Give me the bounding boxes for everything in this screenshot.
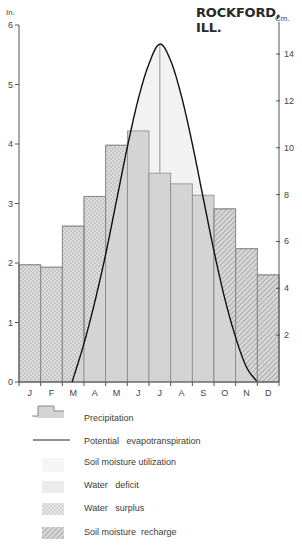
month-label: J [158,388,163,398]
legend-label: Soil moisture recharge [84,527,177,537]
right-tick-label: 2 [284,330,289,340]
plot-area: 01234562468101214JFMAMJJASOND [8,20,294,398]
legend-item-water-surplus: Water surplus [0,497,302,517]
month-label: A [92,388,98,398]
month-label: J [28,388,33,398]
month-label: O [221,388,228,398]
right-tick-label: 6 [284,236,289,246]
left-tick-label: 4 [8,139,13,149]
left-tick-label: 1 [8,318,13,328]
legend-item-precipitation: Precipitation [0,402,302,422]
legend-label: Potential evapotranspiration [84,436,201,446]
month-label: F [49,388,55,398]
month-label: S [200,388,206,398]
left-axis-unit: In. [6,8,15,17]
right-axis-unit: Cm. [275,14,290,23]
legend: Precipitation Potential evapotranspirati… [0,400,302,547]
light-fill-icon [30,456,70,472]
legend-label: Water surplus [84,503,144,513]
precipitation-bar [171,184,193,382]
precipitation-bar [192,195,214,382]
right-tick-label: 12 [284,96,294,106]
legend-label: Soil moisture utilization [84,457,176,467]
left-tick-label: 3 [8,199,13,209]
left-tick-label: 2 [8,258,13,268]
left-tick-label: 6 [8,20,13,30]
precipitation-bar [149,173,171,382]
legend-label: Precipitation [84,413,134,423]
precipitation-bar [257,275,279,382]
legend-item-water-deficit: Water deficit [0,475,302,495]
dots-icon [30,501,70,517]
right-tick-label: 14 [284,49,294,59]
precipitation-bar-icon [30,402,70,418]
right-tick-label: 4 [284,283,289,293]
precipitation-bar [41,267,63,382]
left-tick-label: 5 [8,80,13,90]
hatch-icon [30,525,70,541]
precipitation-bar [19,265,41,382]
precipitation-bar [127,131,149,382]
right-tick-label: 10 [284,143,294,153]
gray-fill-icon [30,479,70,495]
right-tick-label: 8 [284,190,289,200]
legend-item-soil-moisture-utilization: Soil moisture utilization [0,452,302,472]
month-label: D [265,388,272,398]
legend-item-soil-moisture-recharge: Soil moisture recharge [0,522,302,542]
month-label: A [178,388,184,398]
legend-item-evapotranspiration: Potential evapotranspiration [0,429,302,449]
chart: 01234562468101214JFMAMJJASOND [0,0,302,400]
line-icon [30,432,70,448]
legend-label: Water deficit [84,480,139,490]
month-label: N [243,388,250,398]
month-label: M [113,388,121,398]
month-label: M [69,388,77,398]
month-label: J [136,388,141,398]
left-tick-label: 0 [8,377,13,387]
